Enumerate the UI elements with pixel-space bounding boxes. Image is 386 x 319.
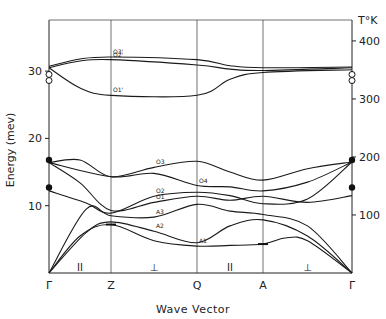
y2-axis-title: T°K xyxy=(357,14,378,27)
x-tick-label: Γ xyxy=(46,279,53,292)
branch-label: O4 xyxy=(199,177,208,184)
branch-o3-prime xyxy=(49,57,352,68)
x-tick-label: Γ xyxy=(349,279,356,292)
exp-point-open xyxy=(46,71,52,77)
y2-tick-label: 300 xyxy=(359,93,380,106)
exp-point-open xyxy=(46,78,52,84)
exp-point-open xyxy=(349,71,355,77)
y-tick-label: 30 xyxy=(28,65,42,78)
segment-label: II xyxy=(77,262,83,273)
y2-tick-label: 400 xyxy=(359,35,380,48)
phonon-dispersion-chart: ΓZQAΓII⊥II⊥102030100200300400T°KWave Vec… xyxy=(0,0,386,319)
y2-tick-label: 200 xyxy=(359,151,380,164)
y2-tick-label: 100 xyxy=(359,209,380,222)
y-axis-title: Energy (mev) xyxy=(4,113,17,188)
x-tick-label: Z xyxy=(107,279,115,292)
x-tick-label: A xyxy=(259,279,267,292)
branch-label: O2 xyxy=(156,187,165,194)
segment-label: II xyxy=(227,262,233,273)
branch-o2 xyxy=(49,162,352,213)
branch-label: O3' xyxy=(113,48,124,55)
exp-point-filled xyxy=(349,184,355,190)
y-tick-label: 10 xyxy=(28,200,42,213)
y-tick-label: 20 xyxy=(28,132,42,145)
x-axis-title: Wave Vector xyxy=(156,303,230,316)
exp-point-filled xyxy=(349,157,355,163)
branch-label: O1' xyxy=(113,86,124,93)
branch-label: A3 xyxy=(156,208,164,215)
branch-label: O3 xyxy=(156,158,165,165)
x-tick-label: Q xyxy=(193,279,202,292)
segment-label: ⊥ xyxy=(150,262,159,273)
exp-point-filled xyxy=(46,184,52,190)
branch-label: A2 xyxy=(156,222,164,229)
segment-label: ⊥ xyxy=(303,262,312,273)
branch-o1-prime xyxy=(49,68,352,97)
exp-point-filled xyxy=(46,157,52,163)
branch-o2-prime xyxy=(49,59,352,70)
exp-point-open xyxy=(349,78,355,84)
